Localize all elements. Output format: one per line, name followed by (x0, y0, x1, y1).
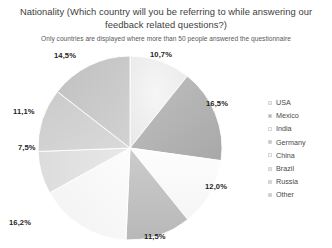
legend-label: Mexico (276, 111, 299, 120)
legend-item-brazil[interactable]: Brazil (268, 162, 332, 175)
data-label-germany: 11,5% (144, 232, 166, 241)
legend-label: China (276, 151, 295, 160)
legend-label: Other (276, 190, 294, 199)
chart-subtitle: Only countries are displayed where more … (8, 34, 324, 44)
legend-swatch-icon (268, 193, 272, 197)
legend-swatch-icon (268, 127, 272, 131)
legend-label: Brazil (276, 164, 294, 173)
pie-slices (38, 56, 222, 240)
legend-swatch-icon (268, 140, 272, 144)
plot-area: 10,7% 16,5% 12,0% 11,5% 16,2% 7,5% 11,1%… (0, 48, 266, 248)
legend-swatch-icon (268, 114, 272, 118)
legend-item-china[interactable]: China (268, 149, 332, 162)
legend-label: USA (276, 98, 291, 107)
legend-item-india[interactable]: India (268, 122, 332, 135)
pie-chart-figure: Nationality (Which country will you be r… (0, 0, 332, 248)
legend-swatch-icon (268, 153, 272, 157)
legend-item-other[interactable]: Other (268, 188, 332, 201)
legend-label: Russia (276, 177, 298, 186)
pie-svg (0, 48, 266, 248)
legend-item-germany[interactable]: Germany (268, 136, 332, 149)
data-label-mexico: 16,5% (206, 99, 228, 108)
legend-swatch-icon (268, 167, 272, 171)
legend-item-mexico[interactable]: Mexico (268, 109, 332, 122)
chart-legend: USA Mexico India Germany China Brazil Ru… (268, 96, 332, 202)
data-label-other: 14,5% (54, 51, 76, 60)
data-label-brazil: 7,5% (18, 143, 36, 152)
data-label-russia: 11,1% (13, 107, 35, 116)
legend-swatch-icon (268, 180, 272, 184)
legend-swatch-icon (268, 101, 272, 105)
data-label-india: 12,0% (205, 182, 227, 191)
legend-item-usa[interactable]: USA (268, 96, 332, 109)
chart-header: Nationality (Which country will you be r… (8, 6, 324, 44)
chart-title: Nationality (Which country will you be r… (8, 6, 324, 31)
legend-item-russia[interactable]: Russia (268, 175, 332, 188)
data-label-usa: 10,7% (150, 50, 172, 59)
legend-label: India (276, 124, 292, 133)
legend-label: Germany (276, 138, 306, 147)
data-label-china: 16,2% (9, 218, 31, 227)
